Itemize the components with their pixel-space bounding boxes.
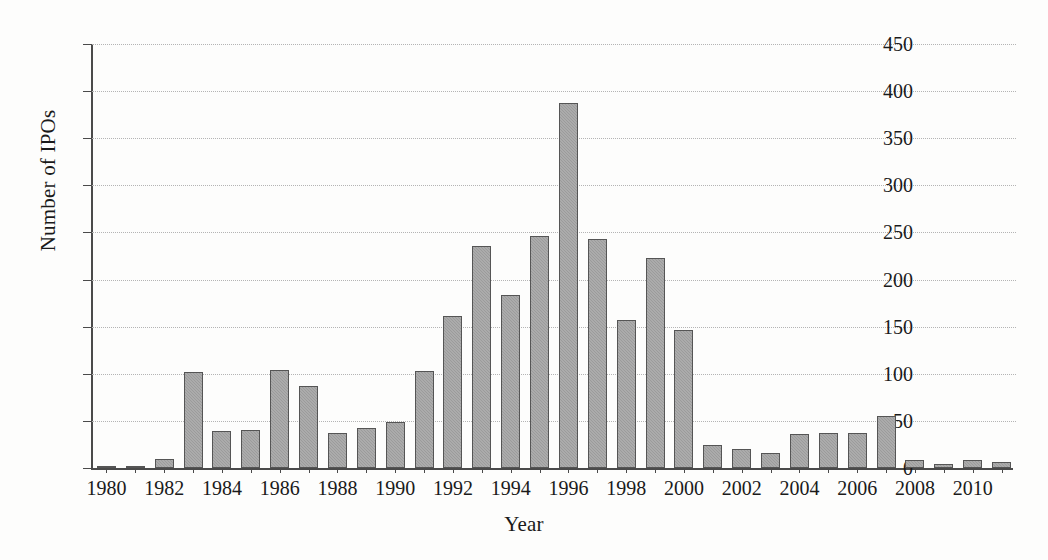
bar-2008 (905, 460, 924, 468)
bar-2010 (963, 460, 982, 468)
bar-2002 (732, 449, 751, 468)
bar-1983 (184, 372, 203, 468)
x-axis-tick (482, 468, 483, 473)
x-axis-tick (106, 468, 107, 473)
bar-1987 (299, 386, 318, 468)
y-axis-tick (83, 138, 92, 139)
x-axis-tick (366, 468, 367, 473)
y-axis-tick (83, 91, 92, 92)
bar-1988 (328, 433, 347, 468)
y-axis-tick (83, 468, 92, 469)
x-axis-tick (857, 468, 858, 473)
x-axis-tick (597, 468, 598, 473)
y-axis-tick (83, 280, 92, 281)
bar-1982 (155, 459, 174, 468)
bar-2003 (761, 453, 780, 468)
bar-1984 (212, 431, 231, 468)
x-axis-tick (540, 468, 541, 473)
bar-series (92, 44, 1016, 468)
x-axis-tick (309, 468, 310, 473)
x-axis-tick (655, 468, 656, 473)
x-axis-tick (193, 468, 194, 473)
x-axis-tick (742, 468, 743, 473)
y-axis-tick (83, 232, 92, 233)
x-axis-tick (280, 468, 281, 473)
bar-1997 (588, 239, 607, 468)
x-axis-tick (684, 468, 685, 473)
plot-area: 050100150200250300350400450 198019821984… (92, 44, 1016, 468)
bar-1995 (530, 236, 549, 468)
x-axis-tick (424, 468, 425, 473)
x-axis-tick (886, 468, 887, 473)
bar-2001 (703, 445, 722, 468)
x-axis-tick (164, 468, 165, 473)
bar-1990 (386, 422, 405, 468)
y-axis-tick (83, 374, 92, 375)
bar-1998 (617, 320, 636, 468)
x-axis-tick (828, 468, 829, 473)
x-axis-tick (453, 468, 454, 473)
bar-1986 (270, 370, 289, 468)
x-axis-tick (973, 468, 974, 473)
bar-2007 (877, 416, 896, 468)
x-axis-tick (915, 468, 916, 473)
bar-1993 (472, 246, 491, 468)
bar-2005 (819, 433, 838, 468)
x-axis-title: Year (0, 512, 1048, 537)
bar-1991 (415, 371, 434, 468)
bar-1994 (501, 295, 520, 468)
x-axis-tick (251, 468, 252, 473)
y-axis-tick (83, 421, 92, 422)
x-axis-tick (944, 468, 945, 473)
x-axis-tick (337, 468, 338, 473)
x-axis-tick (626, 468, 627, 473)
x-axis-tick-label: 2010 (938, 478, 1008, 498)
bar-2000 (674, 330, 693, 469)
bar-1985 (241, 430, 260, 468)
chart-root: Number of IPOs Year 05010015020025030035… (0, 0, 1048, 560)
x-axis-tick (222, 468, 223, 473)
bar-2006 (848, 433, 867, 468)
x-axis-tick (511, 468, 512, 473)
x-axis-tick (395, 468, 396, 473)
x-axis-tick (1002, 468, 1003, 473)
bar-1989 (357, 428, 376, 468)
bar-1996 (559, 103, 578, 468)
y-axis-title: Number of IPOs (36, 51, 61, 311)
x-axis-tick (713, 468, 714, 473)
x-axis-tick (568, 468, 569, 473)
y-axis-tick (83, 327, 92, 328)
x-axis-tick (799, 468, 800, 473)
y-axis-tick (83, 185, 92, 186)
y-axis-tick (83, 44, 92, 45)
bar-2004 (790, 434, 809, 468)
bar-1992 (443, 316, 462, 468)
bar-1999 (646, 258, 665, 468)
x-axis-tick (135, 468, 136, 473)
x-axis-tick (771, 468, 772, 473)
